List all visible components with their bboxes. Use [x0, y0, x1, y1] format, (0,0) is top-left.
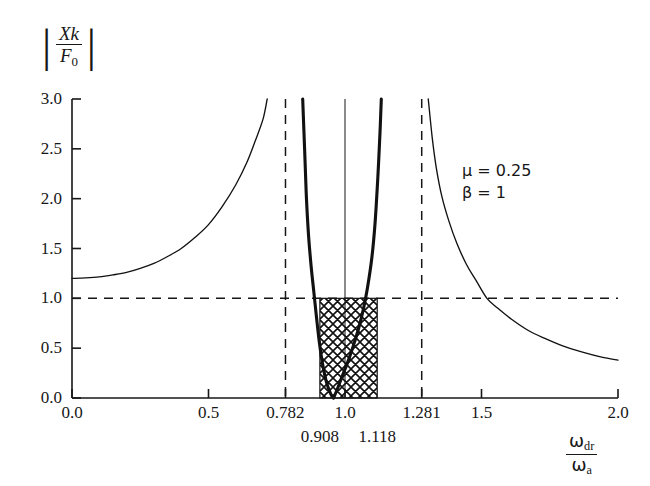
x-tick-label-0.5: 0.5 [183, 404, 235, 421]
abs-bar-right: | [87, 25, 96, 67]
y-tick-label-1.0: 1.0 [18, 289, 62, 306]
x-axis-denominator: ωa [566, 455, 597, 477]
y-tick-label-0.5: 0.5 [18, 339, 62, 356]
x-tick-label-2.0: 2.0 [592, 404, 644, 421]
x-tick-label-0.782: 0.782 [259, 404, 311, 421]
x-tick-label-0.908: 0.908 [294, 428, 346, 445]
hatched-region [320, 298, 377, 398]
x-axis-title: ωdr ωa [566, 432, 597, 476]
x-tick-label-1.118: 1.118 [351, 428, 403, 445]
y-tick-label-3.0: 3.0 [18, 90, 62, 107]
y-tick-label-2.5: 2.5 [18, 140, 62, 157]
y-axis-fraction: Xk F0 [56, 24, 82, 69]
y-axis-numerator: Xk [56, 24, 82, 45]
annotation-beta: β = 1 [462, 182, 506, 205]
x-axis-numerator: ωdr [566, 432, 597, 455]
curve-left-branch [72, 99, 267, 278]
x-tick-label-1.5: 1.5 [456, 404, 508, 421]
y-tick-label-1.5: 1.5 [18, 240, 62, 257]
abs-bar-left: | [42, 25, 51, 67]
reference-lines-group [72, 99, 618, 398]
x-tick-label-0.0: 0.0 [46, 404, 98, 421]
annotation-mu: μ = 0.25 [462, 160, 531, 183]
y-tick-label-2.0: 2.0 [18, 190, 62, 207]
x-tick-label-1.281: 1.281 [396, 404, 448, 421]
chart-figure: | Xk F0 | ωdr ωa μ = 0.25 β = 1 0.00.51.… [0, 0, 650, 486]
y-axis-title: | Xk F0 | [42, 24, 96, 69]
x-tick-label-1.0: 1.0 [319, 404, 371, 421]
x-axis-fraction: ωdr ωa [566, 432, 597, 476]
curve-right-branch [428, 99, 618, 360]
y-axis-denominator: F0 [56, 45, 82, 69]
hatched-region-group [320, 298, 377, 398]
